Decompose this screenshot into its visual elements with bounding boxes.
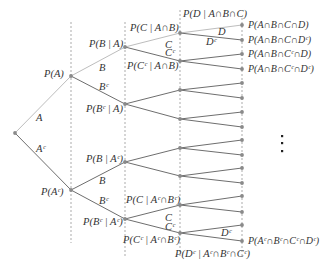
leaf-label-3: P(A∩B∩Cᶜ∩D) [247, 48, 312, 60]
leaf-node [240, 81, 244, 85]
branch-root-level1 [15, 133, 71, 190]
branch-level3-leaf [180, 83, 242, 90]
level3-node [178, 117, 182, 121]
leaf-node [240, 181, 244, 185]
leaf-node [240, 194, 244, 198]
level3-node [178, 146, 182, 150]
edge-label-A: A [35, 112, 43, 123]
prob-label-P-C-given-AB: P(C | A∩B) [129, 22, 179, 34]
edge-label-B-lower: B [99, 175, 106, 186]
edge-label-Dc-top: Dᶜ [205, 36, 218, 47]
tree-branches [15, 25, 242, 241]
leaf-node [240, 96, 244, 100]
edge-label-Bc-lower: Bᶜ [99, 195, 109, 206]
prob-label-P-Cc-given-AcBc: P(Cᶜ | Aᶜ∩Bᶜ) [122, 234, 181, 246]
leaf-node [240, 153, 244, 157]
branch-level2-level3 [125, 104, 180, 119]
branch-level3-leaf [180, 225, 242, 233]
leaf-node [240, 38, 244, 42]
branch-level1-level2 [71, 162, 125, 190]
branch-level3-leaf [180, 25, 242, 33]
leaf-node [240, 210, 244, 214]
level2-node [123, 102, 127, 106]
prob-label-P-D-given-ABC: P(D | A∩B∩C) [182, 8, 247, 20]
leaf-node [240, 138, 244, 142]
leaf-node [240, 239, 244, 243]
branch-level2-level3 [125, 162, 180, 176]
prob-label-P-Bc-given-A: P(Bᶜ | A) [85, 103, 123, 115]
level3-node [178, 59, 182, 63]
edge-label-D-top: D [217, 26, 226, 37]
level3-node [178, 174, 182, 178]
root-node [13, 131, 17, 135]
leaf-label-2: P(A∩B∩C∩Dᶜ) [247, 34, 312, 46]
tree-labels: A Aᶜ P(A) P(Aᶜ) B Bᶜ P(B | A) P(Bᶜ | A) … [35, 8, 320, 260]
leaf-node [240, 166, 244, 170]
prob-label-P-Dc-given-AcBcCc: P(Dᶜ | Aᶜ∩Bᶜ∩Cᶜ) [174, 248, 250, 260]
branch-level3-leaf [180, 61, 242, 69]
edge-label-Dc-bottom: Dᶜ [220, 227, 233, 238]
branch-level3-leaf [180, 119, 242, 127]
prob-label-P-B-given-A: P(B | A) [88, 38, 124, 50]
leaf-node [240, 52, 244, 56]
leaf-label-1: P(A∩B∩C∩D) [247, 19, 309, 31]
level2-node [123, 217, 127, 221]
edge-label-B-upper: B [99, 62, 106, 73]
level2-node [123, 160, 127, 164]
prob-label-P-A: P(A) [43, 68, 64, 80]
branch-level3-leaf [180, 140, 242, 148]
edge-label-Bc-upper: Bᶜ [99, 81, 109, 92]
leaf-label-16: P(Aᶜ∩Bᶜ∩Cᶜ∩Dᶜ) [247, 235, 320, 247]
branch-level3-leaf [180, 54, 242, 61]
ellipsis-dots [281, 135, 283, 152]
prob-label-P-C-given-AcBc: P(C | Aᶜ∩Bᶜ) [125, 194, 181, 206]
branch-level3-leaf [180, 233, 242, 241]
branch-root-level1 [15, 76, 71, 133]
leaf-node [240, 110, 244, 114]
edge-label-Cc-lower: Cᶜ [165, 221, 176, 232]
branch-level2-level3 [125, 90, 180, 104]
branch-level3-leaf [180, 112, 242, 119]
prob-label-P-Cc-given-AB: P(Cᶜ | A∩B) [126, 60, 179, 72]
leaf-node [240, 125, 244, 129]
prob-label-P-Ac: P(Aᶜ) [40, 186, 64, 198]
level1-node [69, 74, 73, 78]
branch-level3-leaf [180, 205, 242, 212]
leaf-label-4: P(A∩B∩Cᶜ∩Dᶜ) [247, 63, 314, 75]
branch-level3-leaf [180, 196, 242, 205]
branch-level1-level2 [71, 190, 125, 219]
level1-node [69, 188, 73, 192]
branch-level1-level2 [71, 76, 125, 104]
branch-level2-level3 [125, 148, 180, 162]
branch-level3-leaf [180, 168, 242, 176]
branch-level3-leaf [180, 176, 242, 183]
level3-node [178, 88, 182, 92]
edge-label-Cc-upper: Cᶜ [165, 47, 176, 58]
leaf-node [240, 67, 244, 71]
prob-label-P-B-given-Ac: P(B | Aᶜ) [85, 153, 123, 165]
leaf-node [240, 23, 244, 27]
branch-level3-leaf [180, 90, 242, 98]
tree-nodes [13, 23, 244, 243]
level2-node [123, 45, 127, 49]
prob-label-P-Bc-given-Ac: P(Bᶜ | Aᶜ) [82, 216, 123, 228]
probability-tree-diagram: A Aᶜ P(A) P(Aᶜ) B Bᶜ P(B | A) P(Bᶜ | A) … [0, 0, 333, 269]
branch-level1-level2 [71, 47, 125, 76]
branch-level3-leaf [180, 148, 242, 155]
leaf-node [240, 223, 244, 227]
edge-label-A-complement: Aᶜ [35, 143, 46, 154]
